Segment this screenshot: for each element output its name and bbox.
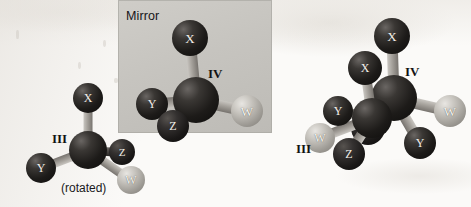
molecule-iii-overlapped: XYZW bbox=[0, 0, 471, 207]
caption-rotated: (rotated) bbox=[61, 181, 106, 195]
molecule-iii-overlapped-atom-X-text: X bbox=[361, 62, 370, 74]
molecule-iii-overlapped-atom-Z: Z bbox=[333, 138, 365, 170]
molecule-iii-overlapped-atom-Z-text: Z bbox=[345, 148, 352, 160]
label-III-left: III bbox=[52, 131, 67, 147]
molecule-iii-overlapped-carbon-center bbox=[352, 98, 392, 138]
label-IV-middle: IV bbox=[208, 66, 222, 82]
molecule-iii-overlapped-atom-Y-text: Y bbox=[334, 105, 343, 117]
label-IV-right: IV bbox=[405, 64, 419, 80]
molecule-iii-overlapped-atom-Y: Y bbox=[323, 96, 353, 126]
label-III-right: III bbox=[296, 141, 311, 157]
molecule-iii-overlapped-atom-W-text: W bbox=[314, 132, 325, 144]
molecule-iii-overlapped-atom-X: X bbox=[348, 51, 382, 85]
figure-canvas: Mirror XYZWXYZWXYZWXYZW III(rotated)IVIV… bbox=[0, 0, 471, 207]
